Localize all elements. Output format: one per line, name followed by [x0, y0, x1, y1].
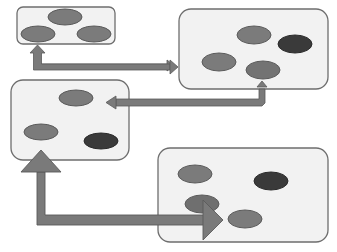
ellipse-node	[228, 210, 262, 228]
ellipse-node	[246, 61, 280, 79]
ellipse-node	[178, 165, 212, 183]
ellipse-node-dark	[278, 35, 312, 53]
ellipse-node	[48, 9, 82, 25]
ellipse-node	[202, 53, 236, 71]
ellipse-node	[77, 26, 111, 42]
ellipse-node	[24, 124, 58, 140]
ellipse-node	[237, 26, 271, 44]
diagram-canvas	[0, 0, 337, 252]
arrow-topleft-topright	[30, 45, 178, 74]
ellipse-node-dark	[254, 172, 288, 190]
ellipse-node	[21, 26, 55, 42]
ellipse-node-dark	[84, 133, 118, 149]
ellipse-node	[59, 90, 93, 106]
